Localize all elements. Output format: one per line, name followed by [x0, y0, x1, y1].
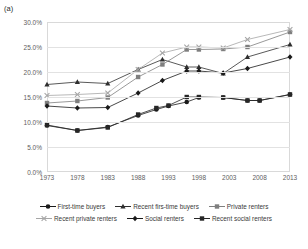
data-point-marker	[154, 106, 158, 110]
x-tick-label: 1983	[101, 174, 115, 181]
legend-item-label: Recent firs-time buyers	[133, 203, 199, 210]
legend-marker-square-icon	[209, 202, 225, 211]
data-point-marker	[105, 105, 110, 111]
chart-series	[45, 92, 292, 132]
legend-item[interactable]: First-time buyers	[40, 202, 106, 211]
data-point-marker	[45, 123, 49, 127]
gridline	[47, 72, 290, 73]
data-point-marker	[184, 100, 189, 105]
legend-item-label: Private renters	[227, 203, 269, 210]
x-tick-label: 1978	[70, 174, 84, 181]
data-point-marker	[106, 125, 110, 129]
legend-item[interactable]: Private renters	[209, 202, 269, 211]
legend-item-label: Recent private renters	[54, 215, 117, 222]
data-point-marker	[245, 98, 249, 102]
y-tick-label: 5.0%	[27, 144, 42, 151]
y-tick-label: 25.0%	[24, 44, 42, 51]
gridline	[47, 97, 290, 98]
legend-item[interactable]: Social renters	[127, 214, 184, 223]
x-tick-label: 1973	[40, 174, 54, 181]
legend-marker-diamond-icon	[127, 214, 143, 223]
legend-item[interactable]: Recent social renters	[194, 214, 272, 223]
series-line	[47, 30, 290, 96]
y-axis: 30.0%25.0%20.0%15.0%10.0%5.0%0.0%	[0, 0, 45, 194]
data-point-marker	[75, 79, 80, 84]
legend-item-label: Social renters	[145, 215, 184, 222]
gridline	[47, 147, 290, 148]
x-tick-label: 2003	[222, 174, 236, 181]
legend-item[interactable]: Recent firs-time buyers	[115, 202, 199, 211]
legend-item-label: Recent social renters	[212, 215, 272, 222]
data-point-marker	[75, 128, 79, 132]
data-point-marker	[136, 112, 140, 116]
chart-series	[44, 42, 292, 87]
data-point-marker	[75, 105, 80, 111]
legend-row: Recent private rentersSocial rentersRece…	[0, 212, 308, 224]
legend-marker-square-icon	[194, 214, 210, 223]
chart-series	[45, 27, 293, 98]
x-axis: 197319781983198819931998200320082013	[0, 174, 308, 188]
chart-figure: (a) 30.0%25.0%20.0%15.0%10.0%5.0%0.0% 19…	[0, 0, 308, 249]
data-point-marker	[160, 62, 164, 66]
chart-series	[45, 92, 293, 133]
y-tick-label: 30.0%	[24, 19, 42, 26]
data-point-marker	[75, 99, 79, 103]
y-tick-label: 10.0%	[24, 119, 42, 126]
plot-area	[47, 22, 290, 172]
data-point-marker	[287, 42, 292, 47]
legend-item[interactable]: Recent private renters	[36, 214, 117, 223]
gridline	[47, 122, 290, 123]
data-point-marker	[257, 98, 261, 102]
series-line	[47, 32, 290, 103]
data-point-marker	[166, 103, 170, 107]
data-point-marker	[136, 90, 141, 96]
data-point-marker	[136, 75, 140, 79]
gridline	[47, 47, 290, 48]
y-tick-label: 20.0%	[24, 69, 42, 76]
legend-row: First-time buyersRecent firs-time buyers…	[0, 200, 308, 212]
data-point-marker	[160, 78, 165, 84]
x-tick-label: 2013	[283, 174, 297, 181]
legend-item-label: First-time buyers	[58, 203, 106, 210]
x-tick-label: 1993	[161, 174, 175, 181]
x-tick-label: 1988	[131, 174, 145, 181]
data-point-marker	[160, 51, 165, 56]
legend-marker-circle-icon	[40, 202, 56, 211]
legend-marker-triangle-icon	[115, 202, 131, 211]
data-point-marker	[288, 54, 293, 60]
data-point-marker	[160, 57, 165, 62]
y-tick-label: 15.0%	[24, 94, 42, 101]
x-tick-label: 2008	[252, 174, 266, 181]
legend-marker-cross-icon	[36, 214, 52, 223]
data-point-marker	[245, 66, 250, 72]
chart-legend: First-time buyersRecent firs-time buyers…	[0, 199, 308, 227]
x-tick-label: 1998	[192, 174, 206, 181]
